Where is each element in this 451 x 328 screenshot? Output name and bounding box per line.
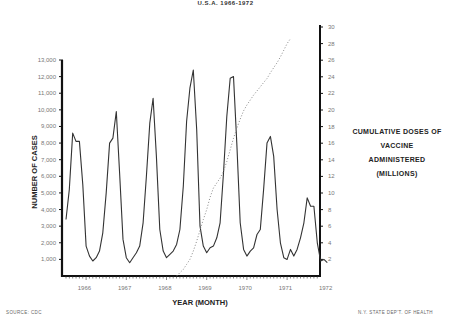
x-tick-label: 1969 xyxy=(198,285,212,291)
right-axis-title-line-1: CUMULATIVE DOSES OF xyxy=(352,125,442,139)
y-tick-label: 10,000 xyxy=(38,107,57,113)
y-tick-label: 11,000 xyxy=(38,90,57,96)
y2-tick-label: 8 xyxy=(328,207,332,213)
x-tick-label: 1971 xyxy=(279,285,293,291)
y2-tick-label: 4 xyxy=(328,240,332,246)
right-axis-title-line-3: (MILLIONS) xyxy=(352,167,442,181)
y-tick-label: 3,000 xyxy=(41,223,57,229)
y-tick-label: 5,000 xyxy=(41,190,57,196)
y2-tick-label: 28 xyxy=(328,41,335,47)
x-tick-label: 1966 xyxy=(78,285,92,291)
right-axis-title-line-2: VACCINE ADMINISTERED xyxy=(352,139,442,167)
y-tick-label: 8,000 xyxy=(41,140,57,146)
y2-tick-label: 30 xyxy=(328,24,335,30)
x-tick-label: 1972 xyxy=(319,285,333,291)
y2-tick-label: 10 xyxy=(328,190,335,196)
y-tick-label: 4,000 xyxy=(41,207,57,213)
y-tick-label: 9,000 xyxy=(41,123,57,129)
y-tick-label: 7,000 xyxy=(41,157,57,163)
x-tick-label: 1970 xyxy=(239,285,253,291)
y2-tick-label: 12 xyxy=(328,173,335,179)
y2-tick-label: 24 xyxy=(328,74,335,80)
x-axis-title: YEAR (MONTH) xyxy=(172,298,228,307)
y2-tick-label: 16 xyxy=(328,140,335,146)
y2-tick-label: 18 xyxy=(328,124,335,130)
source-note: SOURCE: CDC xyxy=(6,310,42,315)
y-tick-label: 1,000 xyxy=(41,256,57,262)
y-tick-label: 12,000 xyxy=(38,74,57,80)
y2-tick-label: 2 xyxy=(328,256,332,262)
x-tick-label: 1968 xyxy=(158,285,172,291)
y2-tick-label: 6 xyxy=(328,223,332,229)
x-tick-label: 1967 xyxy=(118,285,132,291)
cases-line xyxy=(66,70,327,263)
y2-tick-label: 22 xyxy=(328,90,335,96)
y2-tick-label: 20 xyxy=(328,107,335,113)
y-axis-title: NUMBER OF CASES xyxy=(30,135,39,208)
credit-note: N.Y. STATE DEP'T. OF HEALTH xyxy=(358,310,433,315)
right-axis-title: CUMULATIVE DOSES OF VACCINE ADMINISTERED… xyxy=(352,125,442,181)
y2-tick-label: 26 xyxy=(328,57,335,63)
y2-tick-label: 14 xyxy=(328,157,335,163)
y-tick-label: 13,000 xyxy=(38,57,57,63)
y-tick-label: 6,000 xyxy=(41,173,57,179)
y-tick-label: 2,000 xyxy=(41,240,57,246)
